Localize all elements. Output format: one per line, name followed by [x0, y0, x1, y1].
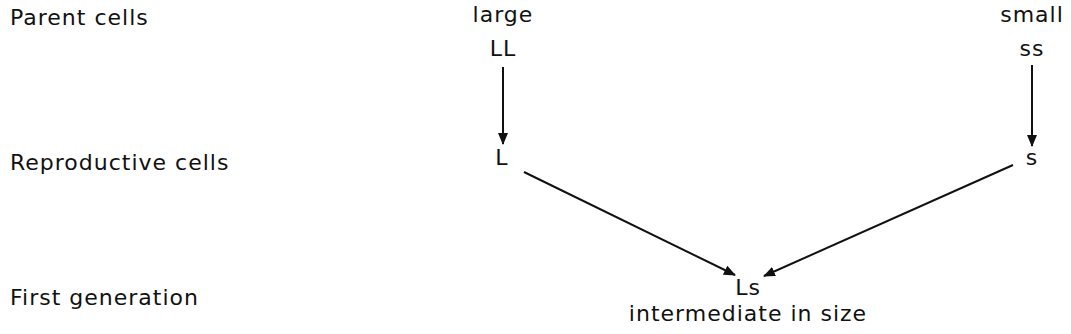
- arrow-right-gamete-to-offspring: [764, 165, 1013, 276]
- arrow-left-gamete-to-offspring: [524, 172, 735, 275]
- arrows-layer: [0, 0, 1071, 334]
